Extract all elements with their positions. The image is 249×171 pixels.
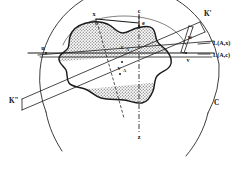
label-k-double-prime: K" (9, 97, 19, 105)
svg-text:c: c (121, 43, 124, 50)
label-c: c (138, 7, 141, 14)
label-leaders (198, 43, 210, 54)
lower-shaded-cap (0, 73, 249, 171)
label-x: x (92, 10, 96, 17)
label-e: e (142, 19, 145, 26)
label-line-L-A-c: L(A,c) (213, 51, 230, 59)
label-u: u (41, 44, 45, 51)
label-z: z (138, 133, 141, 140)
label-line-L-A-x: L(A,x) (213, 39, 230, 47)
label-k-prime: K' (204, 10, 212, 18)
geometry-figure: x c e K' K" w u v c A v A z C L(A,x) L(A… (0, 0, 249, 171)
label-w: w (188, 33, 193, 40)
figure-container: x c e K' K" w u v c A v A z C L(A,x) L(A… (0, 0, 249, 171)
label-C: C (214, 99, 219, 107)
